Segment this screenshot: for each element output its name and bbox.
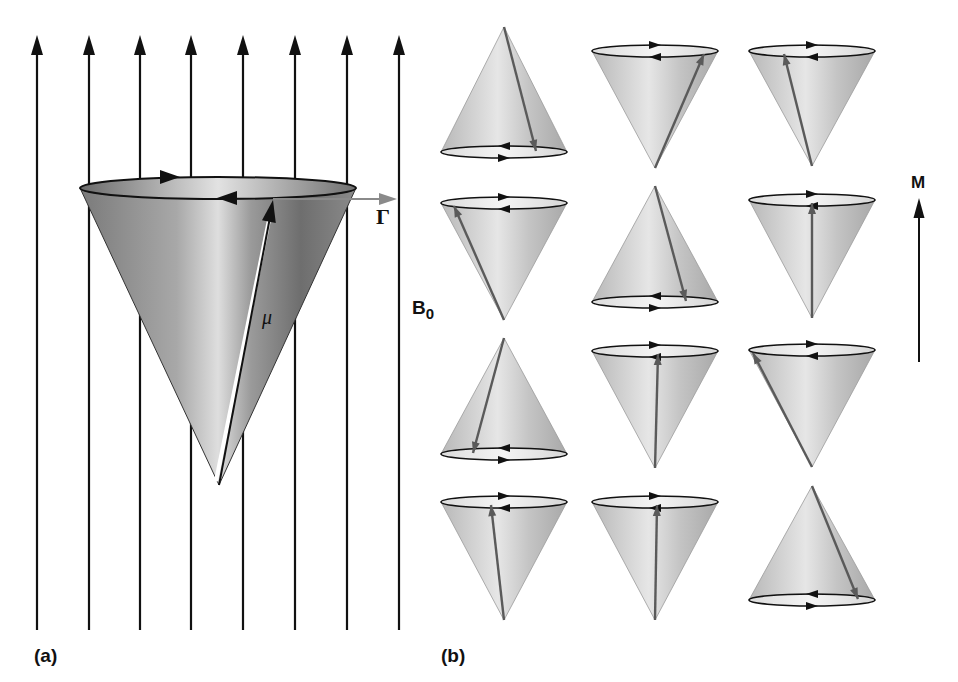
field-arrow-up-icon [134, 35, 146, 55]
cone-body [749, 486, 875, 600]
field-line [393, 35, 405, 630]
field-arrow-up-icon [31, 35, 43, 55]
cone-body [441, 338, 567, 454]
cone-body [749, 51, 875, 166]
field-line [31, 35, 43, 630]
cone-body [592, 51, 718, 168]
field-arrow-up-icon [185, 35, 197, 55]
field-label-main: B [412, 297, 426, 318]
field-line [289, 35, 301, 630]
spin-ensemble-cones [441, 27, 875, 620]
spin-precession-figure: μ Γ B0 (a) M (b) [0, 0, 958, 682]
cone-body [441, 27, 567, 152]
field-line [341, 35, 353, 630]
net-magnetization-arrow [914, 198, 925, 362]
torque-label: Γ [376, 204, 390, 229]
spin-cone-r3c3 [749, 340, 875, 467]
field-label-subscript: 0 [426, 305, 434, 322]
field-arrow-up-icon [237, 35, 249, 55]
precession-cone [80, 170, 397, 485]
field-label: B0 [412, 297, 434, 322]
field-line [134, 35, 146, 630]
panel-a-label: (a) [34, 645, 57, 666]
spin-cone-r1c1 [441, 27, 567, 162]
field-arrow-up-icon [341, 35, 353, 55]
panel-a: μ Γ B0 (a) [31, 35, 434, 666]
spin-cone-r4c3 [749, 486, 875, 610]
spin-cone-r1c3 [749, 41, 875, 166]
spin-cone-r2c2 [592, 186, 718, 312]
net-magnetization-label: M [911, 173, 925, 192]
panel-b-label: (b) [441, 645, 465, 666]
field-arrow-up-icon [393, 35, 405, 55]
spin-cone-r4c2 [592, 492, 718, 620]
panel-b: M (b) [441, 27, 925, 666]
cone-body [749, 350, 875, 467]
field-line [83, 35, 95, 630]
cone-body [441, 502, 567, 620]
field-arrow-up-icon [289, 35, 301, 55]
spin-cone-r2c3 [749, 190, 875, 318]
field-arrow-up-icon [83, 35, 95, 55]
cone-rim [80, 177, 356, 199]
spin-cone-r2c1 [441, 193, 567, 320]
spin-cone-r3c2 [592, 341, 718, 468]
cone-body [592, 186, 718, 302]
cone-body [80, 188, 356, 485]
magnetic-moment-label: μ [261, 306, 272, 329]
spin-cone-r3c1 [441, 338, 567, 464]
net-magnetization-arrowhead-icon [914, 198, 925, 218]
spin-cone-r1c2 [592, 41, 718, 168]
spin-cone-r4c1 [441, 492, 567, 620]
